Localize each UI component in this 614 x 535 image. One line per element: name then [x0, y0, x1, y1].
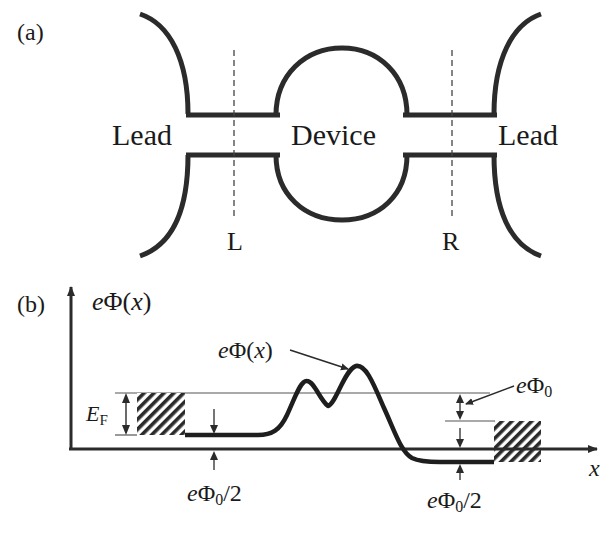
right-channel [403, 115, 497, 155]
phi0-label: eΦ0 [516, 372, 552, 400]
left-reservoir-hatched [137, 393, 185, 435]
device-label: Device [291, 118, 376, 151]
cut-label-right: R [442, 227, 460, 256]
curve-label: eΦ(x) [218, 337, 273, 363]
phi0-leader-line [466, 386, 514, 404]
fermi-label: EF [85, 401, 108, 428]
cut-label-left: L [227, 227, 243, 256]
phi0-arrow-up-head [456, 394, 464, 403]
curve-leader-line [290, 350, 348, 369]
x-axis-label: x [588, 455, 600, 481]
right-half-phi-label: eΦ0/2 [427, 487, 482, 515]
panel-b-label: (b) [17, 291, 45, 317]
left-half-arrow-bottom-head [210, 451, 218, 460]
right-lead-label: Lead [498, 118, 558, 151]
left-lead-label: Lead [112, 118, 172, 151]
figure: (a) Lead Device [0, 0, 614, 535]
y-axis-label: eΦ(x) [92, 287, 151, 316]
fermi-arrow-down-head [122, 425, 130, 435]
panel-a: (a) Lead Device [17, 14, 558, 256]
left-half-arrow-top-head [210, 425, 218, 434]
right-axis-arrow-head [456, 439, 464, 448]
panel-b: (b) eΦ(x) EF eΦ0/2 [17, 287, 600, 515]
right-reservoir-hatched [494, 421, 541, 462]
panel-a-label: (a) [17, 19, 44, 45]
fermi-arrow-up-head [122, 393, 130, 403]
right-half-arrow-head [456, 464, 464, 473]
left-channel [186, 115, 280, 155]
phi0-arrow-down-head [456, 411, 464, 420]
left-half-phi-label: eΦ0/2 [187, 480, 242, 508]
